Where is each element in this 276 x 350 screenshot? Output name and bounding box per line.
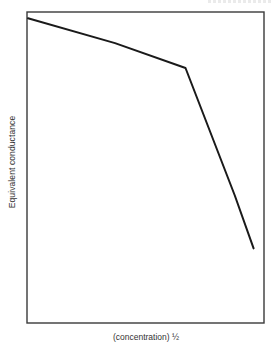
y-axis-label: Equivalent conductance (7, 116, 17, 208)
plot-frame (27, 12, 264, 323)
x-axis-label: (concentration) ½ (113, 332, 179, 342)
conductance-line (28, 18, 254, 248)
chart-area (0, 0, 276, 350)
